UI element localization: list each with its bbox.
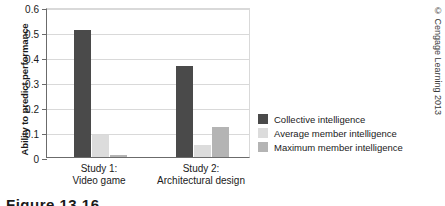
legend-item-2: Maximum member intelligence xyxy=(258,140,403,154)
x-axis-label-line: Study 2: xyxy=(157,163,245,175)
y-axis-tick xyxy=(42,59,47,60)
bar-0-group-1 xyxy=(176,66,193,157)
bar-0-group-0 xyxy=(74,30,91,158)
y-axis-tick-label: 0.3 xyxy=(25,79,39,90)
legend-swatch-icon xyxy=(258,114,268,124)
y-axis-tick-label: 0.4 xyxy=(25,54,39,65)
x-axis-label-group-1: Study 2:Architectural design xyxy=(157,163,245,187)
x-axis-label-group-0: Study 1:Video game xyxy=(72,163,125,187)
y-gridline xyxy=(47,9,249,10)
bar-2-group-0 xyxy=(110,155,127,158)
bar-1-group-1 xyxy=(194,145,211,158)
y-axis-tick xyxy=(42,84,47,85)
legend-item-1: Average member intelligence xyxy=(258,126,403,140)
y-axis-tick-label: 0.6 xyxy=(25,4,39,15)
y-axis-tick xyxy=(42,159,47,160)
bar-2-group-1 xyxy=(212,127,229,157)
bar-1-group-0 xyxy=(92,135,109,158)
y-axis-tick xyxy=(42,9,47,10)
y-axis-tick-label: 0.5 xyxy=(25,29,39,40)
figure-caption: Figure 13.16 xyxy=(6,196,100,206)
plot-area: 00.10.20.30.40.50.6 xyxy=(46,8,250,158)
legend-item-0: Collective intelligence xyxy=(258,112,403,126)
y-axis-tick xyxy=(42,34,47,35)
y-axis-tick-label: 0 xyxy=(33,154,39,165)
legend-label: Maximum member intelligence xyxy=(274,142,403,153)
y-axis-tick xyxy=(42,134,47,135)
legend-swatch-icon xyxy=(258,128,268,138)
figure-container: Ability to predict performance 00.10.20.… xyxy=(0,0,445,206)
x-axis-label-line: Study 1: xyxy=(72,163,125,175)
y-axis-tick xyxy=(42,109,47,110)
y-axis-tick-label: 0.1 xyxy=(25,129,39,140)
x-axis-label-line: Architectural design xyxy=(157,175,245,187)
copyright-notice: © Cengage Learning 2013 xyxy=(433,6,443,115)
y-axis-tick-label: 0.2 xyxy=(25,104,39,115)
legend-label: Average member intelligence xyxy=(274,128,397,139)
x-axis-label-line: Video game xyxy=(72,175,125,187)
legend-label: Collective intelligence xyxy=(274,114,365,125)
chart-legend: Collective intelligenceAverage member in… xyxy=(258,112,403,154)
legend-swatch-icon xyxy=(258,142,268,152)
